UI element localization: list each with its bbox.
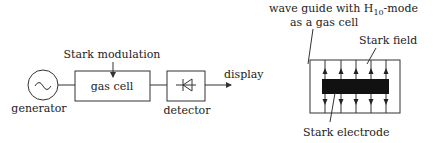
generator-label: generator xyxy=(11,102,67,115)
gas-cell-label: gas cell xyxy=(91,80,134,93)
right-diagram: wave guide with H10-mode as a gas cell S… xyxy=(269,2,418,139)
detector-label: detector xyxy=(164,104,212,117)
stark-electrode-label: Stark electrode xyxy=(303,126,390,139)
left-diagram: Stark modulation generator gas cell dete… xyxy=(11,48,264,117)
generator-circle xyxy=(28,70,58,100)
diode-icon xyxy=(176,79,196,91)
waveguide-subtitle: as a gas cell xyxy=(290,16,359,29)
stark-modulation-label: Stark modulation xyxy=(64,48,161,61)
waveguide-title: wave guide with H10-mode xyxy=(269,2,418,17)
sine-wave-icon xyxy=(35,83,51,90)
display-label: display xyxy=(224,68,264,81)
stark-field-label: Stark field xyxy=(359,34,417,47)
waveguide-pointer xyxy=(308,29,313,64)
detector-box xyxy=(167,71,205,101)
stark-electrode xyxy=(322,79,389,94)
diagram-canvas: Stark modulation generator gas cell dete… xyxy=(0,0,433,143)
electrode-pointer xyxy=(330,93,335,122)
